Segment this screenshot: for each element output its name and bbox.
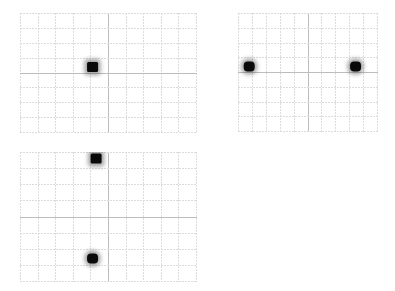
grid-display: [238, 13, 378, 132]
grid-display: [20, 152, 197, 282]
spot-core: [244, 62, 255, 72]
spot-panel-left-right: [238, 13, 378, 132]
spot-1: [241, 59, 257, 75]
spot-1: [88, 152, 104, 167]
spot-core: [87, 254, 98, 264]
spot-1: [85, 59, 101, 75]
spot-panel-center: [20, 13, 197, 133]
spot-core: [350, 62, 361, 72]
grid-display: [20, 13, 197, 133]
spot-2: [85, 251, 101, 267]
spot-panel-top-bottom: [20, 152, 197, 282]
spot-core: [91, 154, 102, 164]
spot-2: [348, 59, 364, 75]
spot-core: [87, 62, 98, 72]
